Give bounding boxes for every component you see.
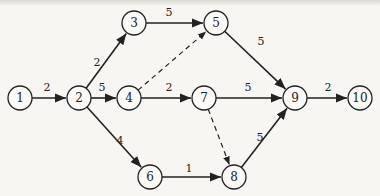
node-8: 8 <box>222 165 246 189</box>
arrow-icon <box>241 108 287 167</box>
node-2: 2 <box>67 86 91 110</box>
arrow-icon <box>225 31 286 89</box>
node-label: 3 <box>130 16 138 30</box>
edge-7-8 <box>208 109 229 165</box>
node-label: 8 <box>230 170 238 184</box>
edge-weight-label: 5 <box>245 81 252 94</box>
node-7: 7 <box>192 86 216 110</box>
node-label: 2 <box>75 91 83 105</box>
edge-weight-label: 2 <box>325 81 332 94</box>
node-5: 5 <box>204 11 228 35</box>
edge-weight-label: 5 <box>258 35 265 48</box>
edge-weight-label: 5 <box>166 6 173 19</box>
edge-weight-label: 2 <box>94 56 101 69</box>
arrow-icon <box>86 33 126 88</box>
arrow-icon <box>208 109 229 165</box>
node-label: 4 <box>125 91 133 105</box>
edge-weight-label: 2 <box>166 81 173 94</box>
edge-2-6 <box>87 107 141 167</box>
node-9: 9 <box>283 86 307 110</box>
node-label: 7 <box>200 91 208 105</box>
node-1: 1 <box>8 86 32 110</box>
node-3: 3 <box>122 11 146 35</box>
node-4: 4 <box>117 86 141 110</box>
edge-weight-label: 1 <box>186 162 193 175</box>
edge-weight-label: 4 <box>117 134 124 147</box>
arrow-icon <box>87 107 141 167</box>
node-10: 10 <box>348 86 372 110</box>
edge-2-3 <box>86 33 126 88</box>
node-label: 1 <box>16 91 24 105</box>
edge-5-9 <box>225 31 286 89</box>
edge-weight-label: 5 <box>257 131 264 144</box>
edge-8-9 <box>241 108 287 167</box>
network-diagram: 22545255152 12345678910 <box>0 0 380 196</box>
node-label: 9 <box>291 91 299 105</box>
edge-weight-label: 5 <box>99 81 106 94</box>
edge-weight-label: 2 <box>44 81 51 94</box>
node-label: 6 <box>146 170 154 184</box>
node-6: 6 <box>138 165 162 189</box>
node-label: 10 <box>352 91 367 105</box>
node-label: 5 <box>212 16 220 30</box>
